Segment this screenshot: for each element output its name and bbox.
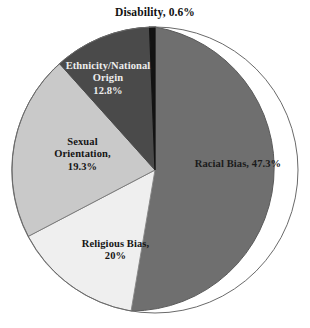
pie-label-ethnicity-line2: Origin: [52, 72, 164, 84]
pie-label-sexual-orientation-line2: Orientation,: [30, 148, 135, 160]
pie-label-ethnicity-line1: Ethnicity/National: [52, 60, 164, 72]
pie-label-sexual-orientation-line1: Sexual: [30, 136, 135, 148]
pie-label-disability-text: Disability, 0.6%: [0, 6, 310, 20]
pie-label-sexual-orientation-line3: 19.3%: [30, 161, 135, 173]
pie-label-sexual-orientation: Sexual Orientation, 19.3%: [30, 136, 135, 173]
pie-label-religious-bias: Religious Bias, 20%: [58, 238, 173, 263]
pie-label-ethnicity-national-origin: Ethnicity/National Origin 12.8%: [52, 60, 164, 97]
pie-label-racial-bias: Racial Bias, 47.3%: [178, 158, 298, 170]
pie-label-religious-bias-line1: Religious Bias,: [58, 238, 173, 250]
pie-label-ethnicity-line3: 12.8%: [52, 85, 164, 97]
pie-chart: Disability, 0.6% Racial Bias, 47.3% Reli…: [0, 0, 310, 328]
pie-label-racial-bias-text: Racial Bias, 47.3%: [178, 158, 298, 170]
pie-label-disability: Disability, 0.6%: [0, 6, 310, 20]
pie-label-religious-bias-line2: 20%: [58, 250, 173, 262]
